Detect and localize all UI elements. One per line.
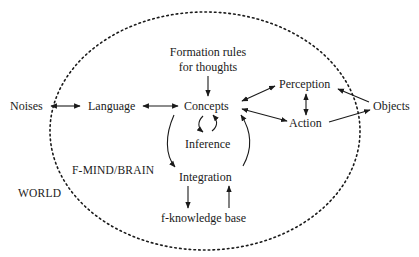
arrow-integration-concepts xyxy=(241,115,250,166)
node-action: Action xyxy=(289,116,322,130)
node-concepts: Concepts xyxy=(184,99,229,113)
region-label-world: WORLD xyxy=(18,186,61,200)
arrow-concepts-perception xyxy=(242,86,275,101)
arrow-concepts-integration xyxy=(167,115,175,167)
arrow-concepts-to-inference xyxy=(199,116,203,132)
node-formation-rules-line1: Formation rules xyxy=(170,45,246,59)
node-knowledge-base: f-knowledge base xyxy=(161,211,246,225)
arrow-action-objects xyxy=(329,110,370,122)
node-integration: Integration xyxy=(179,170,232,184)
node-perception: Perception xyxy=(279,77,330,91)
region-label-mind-brain: F-MIND/BRAIN xyxy=(72,163,154,177)
node-formation-rules-line2: for thoughts xyxy=(179,60,237,74)
node-objects: Objects xyxy=(373,99,410,113)
node-inference: Inference xyxy=(185,137,230,151)
arrow-concepts-action xyxy=(242,109,287,121)
arrow-inference-to-concepts xyxy=(212,115,217,131)
arrow-objects-perception xyxy=(338,89,369,102)
node-language: Language xyxy=(88,99,135,113)
node-noises: Noises xyxy=(10,99,43,113)
